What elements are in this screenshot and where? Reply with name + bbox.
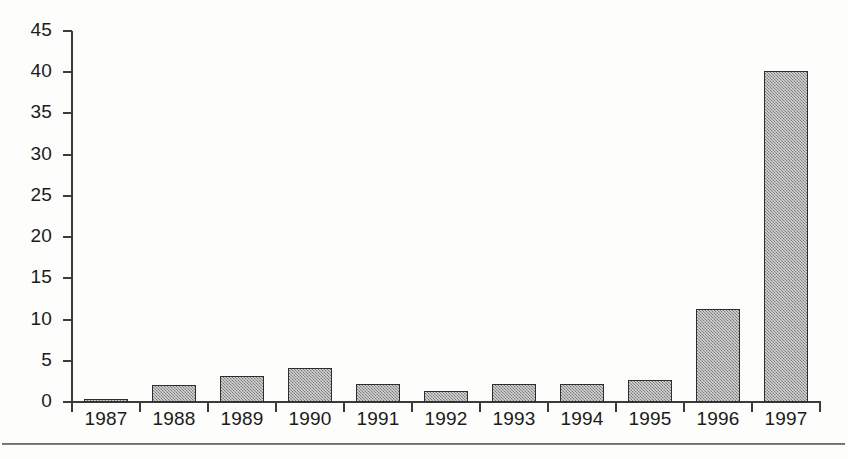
x-axis-label: 1987 bbox=[72, 408, 140, 430]
page-background: 051015202530354045 198719881989199019911… bbox=[0, 0, 848, 459]
y-axis-tick bbox=[63, 277, 72, 279]
x-axis-label: 1989 bbox=[208, 408, 276, 430]
page-divider-rule bbox=[2, 443, 845, 445]
y-axis-tick bbox=[63, 30, 72, 32]
x-axis-label: 1992 bbox=[412, 408, 480, 430]
x-axis-label: 1991 bbox=[344, 408, 412, 430]
y-axis-line bbox=[71, 31, 73, 403]
x-axis-label: 1997 bbox=[752, 408, 820, 430]
bar bbox=[220, 376, 264, 402]
y-axis-tick-label: 10 bbox=[0, 308, 52, 330]
y-axis-tick bbox=[63, 319, 72, 321]
y-axis-tick bbox=[63, 360, 72, 362]
y-axis-tick-label: 25 bbox=[0, 184, 52, 206]
y-axis-tick bbox=[63, 154, 72, 156]
y-axis-tick-label: 0 bbox=[0, 390, 52, 412]
x-axis-label: 1993 bbox=[480, 408, 548, 430]
bar bbox=[288, 368, 332, 402]
bar bbox=[628, 380, 672, 402]
x-axis-label: 1994 bbox=[548, 408, 616, 430]
bar bbox=[424, 391, 468, 402]
y-axis-tick-label: 20 bbox=[0, 225, 52, 247]
bar-chart: 051015202530354045 198719881989199019911… bbox=[0, 0, 848, 440]
x-axis-label: 1996 bbox=[684, 408, 752, 430]
bar bbox=[696, 309, 740, 402]
y-axis-tick bbox=[63, 236, 72, 238]
y-axis-tick bbox=[63, 112, 72, 114]
x-axis-label: 1990 bbox=[276, 408, 344, 430]
y-axis-tick-label: 15 bbox=[0, 266, 52, 288]
bar bbox=[84, 399, 128, 402]
y-axis-tick-label: 30 bbox=[0, 143, 52, 165]
y-axis-tick-label: 5 bbox=[0, 349, 52, 371]
bar bbox=[492, 384, 536, 402]
bar bbox=[356, 384, 400, 402]
bar bbox=[152, 385, 196, 402]
y-axis-tick-label: 40 bbox=[0, 60, 52, 82]
x-axis-label: 1995 bbox=[616, 408, 684, 430]
bar bbox=[764, 71, 808, 402]
y-axis-tick-label: 45 bbox=[0, 19, 52, 41]
bar bbox=[560, 384, 604, 402]
x-axis-label: 1988 bbox=[140, 408, 208, 430]
y-axis-tick bbox=[63, 71, 72, 73]
y-axis-tick bbox=[63, 195, 72, 197]
y-axis-tick-label: 35 bbox=[0, 101, 52, 123]
